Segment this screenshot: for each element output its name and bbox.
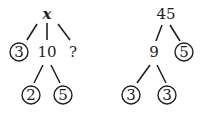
left-node-unknown: ?	[69, 43, 77, 61]
left-node-10: 10	[37, 43, 56, 61]
edge-9-3a	[137, 65, 150, 83]
right-node-3a: 3	[126, 86, 136, 104]
left-root-x: x	[42, 5, 53, 23]
right-node-3b: 3	[162, 86, 172, 104]
left-node-2: 2	[26, 86, 36, 104]
edge-9-3b	[157, 65, 166, 83]
edge-45-9	[156, 25, 162, 41]
factor-trees-diagram: x 3 10 ? 2 5 45 9 5 3 3	[0, 0, 210, 116]
right-factor-tree: 45 9 5 3 3	[122, 5, 193, 104]
left-factor-tree: x 3 10 ? 2 5	[10, 5, 77, 104]
left-node-3: 3	[14, 43, 24, 61]
edge-10-2	[34, 65, 43, 83]
edge-x-question	[58, 24, 70, 40]
left-node-5: 5	[58, 86, 68, 104]
right-node-9: 9	[149, 43, 159, 61]
right-root-45: 45	[156, 5, 175, 23]
right-node-5: 5	[179, 43, 189, 61]
edge-45-5	[170, 25, 180, 41]
edge-x-3	[27, 24, 37, 40]
edge-10-5	[51, 65, 60, 83]
